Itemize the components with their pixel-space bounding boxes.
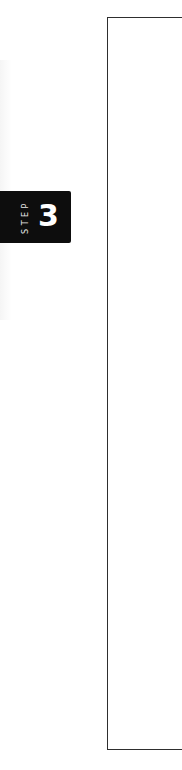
step-badge: STEP 3: [0, 191, 71, 243]
step-label: STEP: [22, 200, 30, 234]
content-frame: [107, 17, 182, 750]
left-edge-shadow: [0, 60, 12, 320]
step-number: 3: [38, 199, 59, 233]
